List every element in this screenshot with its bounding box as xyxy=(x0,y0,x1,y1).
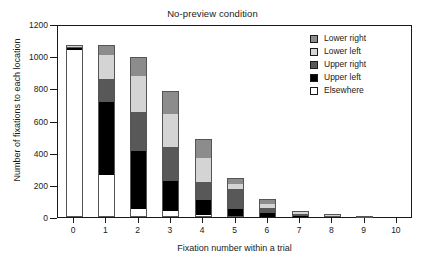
bar-segment xyxy=(66,50,83,217)
x-tick-label: 7 xyxy=(287,225,311,235)
legend-label: Lower right xyxy=(324,34,366,43)
bar-segment xyxy=(162,91,179,114)
x-tick-label: 8 xyxy=(319,225,343,235)
y-tick-mark xyxy=(50,122,57,123)
bar-stack xyxy=(66,45,83,217)
x-tick-mark xyxy=(364,218,365,223)
x-tick-label: 6 xyxy=(255,225,279,235)
bar-segment xyxy=(292,212,309,214)
x-tick-label: 10 xyxy=(384,225,408,235)
y-tick-label: 200 xyxy=(14,181,48,191)
legend-swatch-icon xyxy=(310,61,318,69)
y-tick-mark xyxy=(50,218,57,219)
legend-item: Upper right xyxy=(310,59,366,70)
legend-item: Lower left xyxy=(310,46,366,57)
bar-segment xyxy=(130,209,147,217)
bar-segment xyxy=(162,181,179,212)
y-tick-mark xyxy=(50,89,57,90)
x-tick-label: 2 xyxy=(126,225,150,235)
bar-segment xyxy=(324,216,341,217)
bar-segment xyxy=(162,114,179,147)
x-tick-label: 4 xyxy=(190,225,214,235)
bar-segment xyxy=(292,211,309,213)
y-axis-label: Number of fixations to each location xyxy=(12,15,22,205)
bar-segment xyxy=(98,102,115,175)
legend-item: Upper left xyxy=(310,72,366,83)
bar-segment xyxy=(227,184,244,189)
x-tick-mark xyxy=(299,218,300,223)
bar-segment xyxy=(66,48,83,49)
legend-item: Elsewhere xyxy=(310,85,366,96)
legend-item: Lower right xyxy=(310,33,366,44)
legend-swatch-icon xyxy=(310,74,318,82)
y-tick-mark xyxy=(50,186,57,187)
bar-segment xyxy=(195,200,212,214)
legend-label: Upper left xyxy=(324,73,361,82)
bar-segment xyxy=(130,57,147,77)
x-tick-mark xyxy=(73,218,74,223)
bar-segment xyxy=(195,139,212,159)
bar-segment xyxy=(292,216,309,217)
x-tick-label: 5 xyxy=(223,225,247,235)
x-tick-mark xyxy=(267,218,268,223)
bar-segment xyxy=(324,216,341,217)
bar-stack xyxy=(227,178,244,217)
legend-swatch-icon xyxy=(310,48,318,56)
bar-segment xyxy=(162,147,179,181)
legend-label: Upper right xyxy=(324,60,366,69)
bar-stack xyxy=(98,45,115,217)
y-tick-label: 0 xyxy=(14,213,48,223)
x-tick-mark xyxy=(331,218,332,223)
bar-segment xyxy=(130,151,147,209)
y-tick-mark xyxy=(50,25,57,26)
bar-segment xyxy=(66,47,83,49)
y-tick-label: 600 xyxy=(14,117,48,127)
bar-segment xyxy=(98,45,115,55)
y-tick-mark xyxy=(50,154,57,155)
x-tick-mark xyxy=(138,218,139,223)
bar-segment xyxy=(195,215,212,217)
bar-segment xyxy=(259,213,276,217)
bar-segment xyxy=(227,209,244,216)
chart-figure: No-preview condition Number of fixations… xyxy=(0,0,425,272)
x-tick-label: 1 xyxy=(93,225,117,235)
chart-title: No-preview condition xyxy=(0,8,425,19)
chart-legend: Lower rightLower leftUpper rightUpper le… xyxy=(310,33,366,96)
bar-segment xyxy=(227,178,244,184)
bar-segment xyxy=(356,216,373,217)
bar-segment xyxy=(98,79,115,102)
legend-label: Lower left xyxy=(324,47,361,56)
bar-segment xyxy=(130,112,147,151)
x-tick-mark xyxy=(170,218,171,223)
bar-stack xyxy=(324,215,341,217)
y-tick-mark xyxy=(50,57,57,58)
y-tick-label: 1000 xyxy=(14,52,48,62)
bar-segment xyxy=(195,158,212,181)
x-tick-mark xyxy=(235,218,236,223)
x-tick-label: 9 xyxy=(352,225,376,235)
x-axis-label: Fixation number within a trial xyxy=(57,243,412,253)
x-tick-mark xyxy=(105,218,106,223)
bar-segment xyxy=(195,182,212,201)
bar-segment xyxy=(227,189,244,209)
bar-stack xyxy=(162,91,179,217)
bar-segment xyxy=(324,214,341,215)
bar-segment xyxy=(259,208,276,213)
bar-segment xyxy=(259,204,276,209)
legend-label: Elsewhere xyxy=(324,86,364,95)
bar-stack xyxy=(292,211,309,217)
bar-segment xyxy=(162,211,179,217)
bar-segment xyxy=(98,55,115,78)
bar-segment xyxy=(98,175,115,217)
y-tick-label: 400 xyxy=(14,149,48,159)
x-tick-label: 0 xyxy=(61,225,85,235)
y-tick-label: 1200 xyxy=(14,20,48,30)
x-tick-label: 3 xyxy=(158,225,182,235)
legend-swatch-icon xyxy=(310,87,318,95)
x-tick-mark xyxy=(396,218,397,223)
bar-segment xyxy=(259,199,276,204)
bar-segment xyxy=(66,45,83,46)
bar-stack xyxy=(259,199,276,217)
bar-stack xyxy=(130,57,147,217)
bar-segment xyxy=(292,214,309,215)
